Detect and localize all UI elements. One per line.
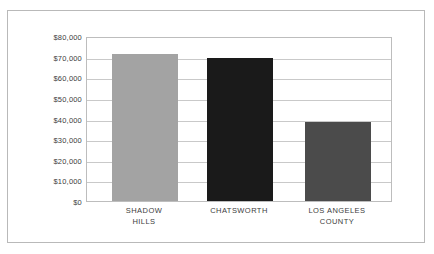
bar-los-angeles-county[interactable] [305, 122, 371, 201]
y-tick-label: $30,000 [4, 137, 82, 145]
bar-chart-figure: $80,000 $70,000 $60,000 $50,000 $40,000 … [0, 0, 434, 254]
y-tick-label: $80,000 [4, 34, 82, 42]
y-tick-label: $10,000 [4, 178, 82, 186]
y-tick-label: $60,000 [4, 75, 82, 83]
x-tick-label: CHATSWORTH [189, 206, 289, 217]
y-tick-label: $70,000 [4, 55, 82, 63]
bar-chatsworth[interactable] [207, 58, 273, 201]
x-tick-label: LOS ANGELES COUNTY [287, 206, 387, 227]
y-axis: $80,000 $70,000 $60,000 $50,000 $40,000 … [0, 0, 82, 254]
y-tick-label: $0 [4, 199, 82, 207]
y-tick-label: $20,000 [4, 158, 82, 166]
bar-shadow-hills[interactable] [112, 54, 178, 201]
x-tick-label: SHADOW HILLS [94, 206, 194, 227]
y-tick-label: $50,000 [4, 96, 82, 104]
plot-area [86, 37, 392, 202]
y-tick-label: $40,000 [4, 117, 82, 125]
x-axis: SHADOW HILLS CHATSWORTH LOS ANGELES COUN… [86, 206, 392, 246]
